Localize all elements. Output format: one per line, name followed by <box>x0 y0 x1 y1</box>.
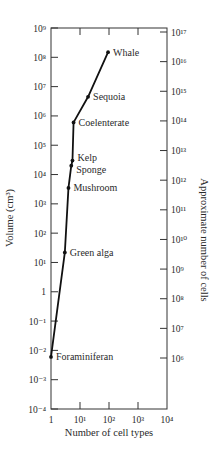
data-point <box>67 186 71 190</box>
y-tick-label: 10⁻⁴ <box>28 405 47 415</box>
y-tick-label: 10⁵ <box>33 141 46 151</box>
y2-tick-label: 10¹¹ <box>171 205 186 215</box>
right-y-axis-ticks: 10¹⁷10¹⁶10¹⁵10¹⁴10¹³10¹²10¹¹10¹⁰10⁹10⁸10… <box>160 28 187 364</box>
data-point <box>69 164 73 168</box>
y-tick-label: 10⁹ <box>33 24 47 34</box>
point-label: Foraminiferan <box>56 351 113 362</box>
point-label: Whale <box>113 47 140 58</box>
y2-tick-label: 10¹⁰ <box>171 235 187 245</box>
left-y-axis-ticks: 10⁹10⁸10⁷10⁶10⁵10⁴10³10²10¹110⁻¹10⁻²10⁻³… <box>28 24 58 415</box>
point-label: Sequoia <box>93 91 126 102</box>
y-tick-label: 10¹ <box>34 258 47 268</box>
y2-tick-label: 10¹² <box>171 176 186 186</box>
y2-tick-label: 10¹⁷ <box>171 28 187 38</box>
y-tick-label: 10⁴ <box>33 170 47 180</box>
x-tick-label: 10² <box>103 415 116 425</box>
y2-tick-label: 10¹⁵ <box>171 87 187 97</box>
data-series: ForaminiferanGreen algaMushroomSpongeKel… <box>49 47 140 363</box>
point-label: Kelp <box>77 152 96 163</box>
y2-tick-label: 10⁶ <box>171 354 184 364</box>
y-tick-label: 10² <box>34 229 47 239</box>
point-label: Mushroom <box>73 182 117 193</box>
x-axis-label: Number of cell types <box>65 427 153 438</box>
y-tick-label: 10⁷ <box>33 82 46 92</box>
y-tick-label: 1 <box>41 287 46 297</box>
x-tick-label: 10³ <box>132 415 145 425</box>
data-point <box>63 251 67 255</box>
x-tick-label: 10¹ <box>74 415 87 425</box>
point-label: Green alga <box>70 247 114 258</box>
y-tick-label: 10⁻² <box>29 346 47 356</box>
data-point <box>72 121 76 125</box>
y2-tick-label: 10¹⁴ <box>171 116 187 126</box>
y-tick-label: 10⁻³ <box>29 375 47 385</box>
x-tick-label: 10⁴ <box>161 415 175 425</box>
y2-tick-label: 10⁸ <box>171 294 184 304</box>
point-label: Coelenterate <box>79 117 130 128</box>
y2-tick-label: 10¹⁶ <box>171 57 187 67</box>
y-tick-label: 10⁻¹ <box>29 317 47 327</box>
y-tick-label: 10³ <box>34 199 47 209</box>
x-axis-ticks: 110¹10²10³10⁴ <box>49 28 174 425</box>
y-tick-label: 10⁸ <box>33 53 46 63</box>
y2-tick-label: 10⁷ <box>171 324 184 334</box>
y2-axis-label: Approximate number of cells <box>199 178 210 301</box>
data-point <box>49 355 53 359</box>
x-tick-label: 1 <box>49 415 54 425</box>
y2-tick-label: 10⁹ <box>171 265 185 275</box>
chart: 10⁹10⁸10⁷10⁶10⁵10⁴10³10²10¹110⁻¹10⁻²10⁻³… <box>0 0 214 465</box>
y-axis-label: Volume (cm³) <box>4 188 16 247</box>
y-tick-label: 10⁶ <box>33 111 46 121</box>
point-label: Sponge <box>76 164 107 175</box>
data-point <box>106 50 110 54</box>
chart-canvas: 10⁹10⁸10⁷10⁶10⁵10⁴10³10²10¹110⁻¹10⁻²10⁻³… <box>0 0 214 465</box>
data-point <box>86 95 90 99</box>
data-point <box>71 159 75 163</box>
y2-tick-label: 10¹³ <box>171 146 186 156</box>
